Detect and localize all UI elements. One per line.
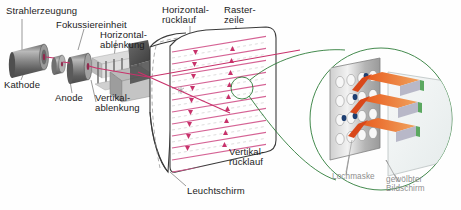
magnified-detail [330,58,452,178]
focus-unit-component [67,53,92,84]
label-curved-screen-line1: gewölbter [386,175,422,184]
label-horizontal-retrace-line2: rücklauf [162,15,196,26]
label-horizontal-deflection-line2: ablenkung [100,40,145,51]
cathode-component [9,44,49,78]
label-anode: Anode [55,93,83,104]
label-phosphor-screen: Leuchtschirm [187,186,245,197]
label-vertical-deflection-line2: ablenkung [95,103,140,114]
label-vertical-retrace-line2: rücklauf [229,157,263,168]
label-curved-screen-line2: Bildschirm [386,184,425,193]
crt-diagram-figure: Strahlerzeugung Fokussiereinheit Horizon… [0,0,461,210]
label-beam-generation: Strahlerzeugung [6,6,77,17]
label-cathode: Kathode [4,80,40,91]
label-raster-line-line2: zeile [224,15,244,26]
label-shadow-mask: Lochmaske [332,172,375,181]
